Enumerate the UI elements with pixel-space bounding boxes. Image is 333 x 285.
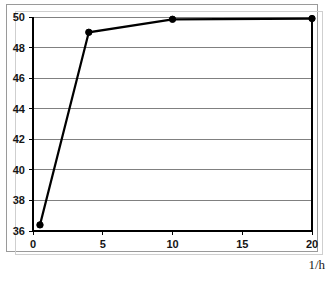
data-point-marker bbox=[86, 29, 92, 35]
chart-figure: 363840424446485005101520 1/h bbox=[0, 0, 333, 285]
y-axis-tick-label: 44 bbox=[13, 103, 26, 115]
data-line bbox=[40, 19, 312, 225]
y-axis-tick-label: 42 bbox=[13, 133, 25, 145]
y-axis-tick-label: 50 bbox=[13, 11, 25, 23]
x-axis-tick-label: 5 bbox=[100, 238, 106, 250]
x-axis-tick-label: 15 bbox=[236, 238, 248, 250]
y-axis-tick-label: 36 bbox=[13, 225, 25, 237]
x-axis-label: 1/h bbox=[308, 258, 325, 271]
y-axis-tick-label: 48 bbox=[13, 42, 25, 54]
y-axis-tick-label: 38 bbox=[13, 194, 25, 206]
x-axis-tick-label: 0 bbox=[30, 238, 36, 250]
y-axis-tick-label: 46 bbox=[13, 72, 25, 84]
y-axis-tick-label: 40 bbox=[13, 164, 25, 176]
x-axis-tick-label: 20 bbox=[306, 238, 318, 250]
data-point-marker bbox=[37, 222, 43, 228]
data-point-marker bbox=[309, 15, 315, 21]
x-axis-tick-label: 10 bbox=[166, 238, 178, 250]
line-chart-plot: 363840424446485005101520 bbox=[0, 0, 333, 285]
data-point-marker bbox=[169, 16, 175, 22]
